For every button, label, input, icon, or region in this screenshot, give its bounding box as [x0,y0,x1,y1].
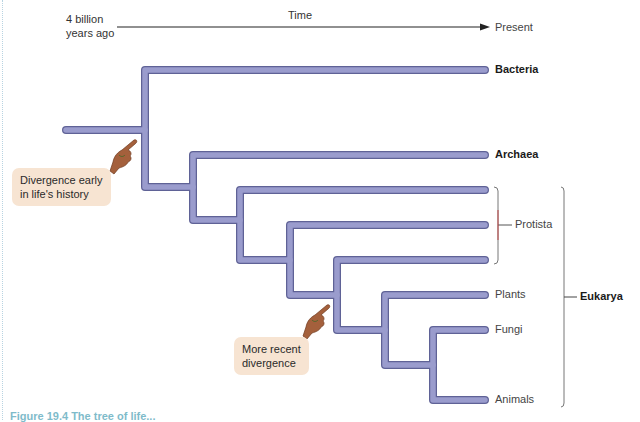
callout-recent-line1: More recent [242,342,301,356]
callout-early-divergence: Divergence early in life's history [12,168,111,206]
protista-bracket [494,187,512,264]
callout-early-line2: in life's history [20,187,103,201]
leaf-label-plants: Plants [495,288,526,300]
leaf-label-fungi: Fungi [495,323,523,335]
callout-recent-divergence: More recent divergence [234,337,309,375]
leaf-label-bacteria: Bacteria [495,63,538,75]
leaf-label-archaea: Archaea [495,148,538,160]
group-label-eukarya: Eukarya [580,290,623,302]
time-arrow [117,24,490,31]
group-label-protista: Protista [515,218,552,230]
pointing-hand-icon-recent [303,305,330,339]
callout-early-line1: Divergence early [20,173,103,187]
callout-recent-line2: divergence [242,356,301,370]
pointing-hand-icon-early [110,140,137,174]
eukarya-bracket [561,187,577,407]
leaf-label-animals: Animals [495,393,534,405]
figure-caption: Figure 19.4 The tree of life... [10,410,155,422]
